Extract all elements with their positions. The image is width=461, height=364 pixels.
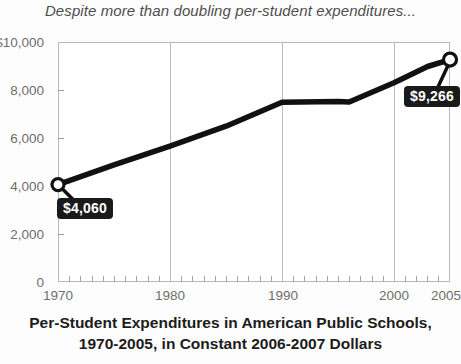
x-tick-minor (271, 276, 272, 282)
x-tick-minor (148, 276, 149, 282)
x-tick-label-1970: 1970 (43, 288, 73, 303)
gridline-1990 (282, 42, 283, 282)
x-tick-minor (215, 276, 216, 282)
y-tick-mark-4000 (58, 186, 64, 187)
x-tick-label-1980: 1980 (155, 288, 185, 303)
x-tick-label-2005: 2005 (431, 288, 461, 303)
x-tick-label-1990: 1990 (268, 288, 298, 303)
x-tick-minor (338, 276, 339, 282)
x-tick-minor (248, 276, 249, 282)
x-tick-minor (136, 276, 137, 282)
y-tick-label-10000: $10,000 (0, 35, 44, 50)
x-tick-minor (405, 276, 406, 282)
x-tick-minor (80, 276, 81, 282)
x-tick-minor (316, 276, 317, 282)
x-tick-minor (327, 276, 328, 282)
y-tick-label-4000: 4,000 (10, 179, 44, 194)
y-tick-mark-2000 (58, 234, 64, 235)
y-axis-labels: $10,000 8,000 6,000 4,000 2,000 0 (0, 0, 52, 364)
x-tick-minor (159, 276, 160, 282)
x-tick-minor (260, 276, 261, 282)
x-tick-minor (204, 276, 205, 282)
x-tick-minor (192, 276, 193, 282)
data-label-start: $4,060 (57, 198, 113, 219)
x-tick-minor (304, 276, 305, 282)
y-tick-label-8000: 8,000 (10, 83, 44, 98)
y-tick-label-2000: 2,000 (10, 227, 44, 242)
y-tick-mark-8000 (58, 90, 64, 91)
x-tick-minor (125, 276, 126, 282)
data-label-end: $9,266 (404, 86, 460, 107)
y-tick-mark-6000 (58, 138, 64, 139)
plot-area (58, 42, 450, 282)
x-tick-minor (360, 276, 361, 282)
x-tick-minor (383, 276, 384, 282)
x-tick-minor (372, 276, 373, 282)
x-tick-label-2000: 2000 (379, 288, 409, 303)
x-tick-minor (416, 276, 417, 282)
gridline-2000 (394, 42, 395, 282)
chart-figure: Despite more than doubling per-student e… (0, 0, 461, 364)
x-tick-minor (181, 276, 182, 282)
x-tick-minor (92, 276, 93, 282)
caption-line-2: 1970-2005, in Constant 2006-2007 Dollars (0, 333, 461, 354)
chart-title: Despite more than doubling per-student e… (0, 2, 461, 19)
x-tick-minor (103, 276, 104, 282)
x-tick-minor (114, 276, 115, 282)
x-tick-minor (226, 276, 227, 282)
x-tick-minor (349, 276, 350, 282)
caption-line-1: Per-Student Expenditures in American Pub… (0, 312, 461, 333)
x-tick-minor (427, 276, 428, 282)
y-tick-label-6000: 6,000 (10, 131, 44, 146)
gridline-1980 (170, 42, 171, 282)
x-tick-minor (293, 276, 294, 282)
chart-caption: Per-Student Expenditures in American Pub… (0, 312, 461, 354)
x-tick-minor (237, 276, 238, 282)
x-tick-minor (438, 276, 439, 282)
x-tick-minor (69, 276, 70, 282)
